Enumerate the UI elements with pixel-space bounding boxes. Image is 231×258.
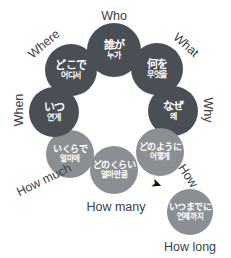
node-how-korean: 어떻게 <box>150 153 170 161</box>
node-how_many-korean: 얼마만큼 <box>101 171 127 179</box>
label-why: Why <box>201 98 215 123</box>
label-how_much: How much <box>14 161 73 199</box>
label-how_long: How long <box>164 240 216 254</box>
node-who-korean: 누가 <box>107 52 120 60</box>
label-how_many: How many <box>86 200 145 214</box>
node-how_long-japanese: いつまでに <box>169 203 212 212</box>
node-how_long: いつまでに언제까지 <box>167 189 213 235</box>
question-words-wheel-diagram: 誰が누가Who何を무엇을Whatなぜ왜Whyどのように어떻게Howどのくらい얼마… <box>0 0 231 258</box>
node-why-korean: 왜 <box>170 113 177 121</box>
node-what-korean: 무엇을 <box>147 71 167 79</box>
node-where-korean: 어디서 <box>61 72 81 80</box>
node-where: どこで어디서 <box>45 44 97 96</box>
node-who-japanese: 誰が <box>104 40 125 52</box>
node-when-korean: 연게 <box>47 114 60 122</box>
node-how_long-korean: 언제까지 <box>177 213 203 221</box>
node-what-japanese: 何を <box>147 59 168 71</box>
node-where-japanese: どこで <box>55 60 87 72</box>
node-how_much-japanese: いくらで <box>53 145 87 154</box>
label-how: How <box>175 162 201 191</box>
label-when: When <box>12 94 26 127</box>
node-how_many: どのくらい얼마만큼 <box>90 146 138 194</box>
arrow-marker-icon: ➤ <box>149 176 164 191</box>
node-why-japanese: なぜ <box>163 101 184 113</box>
node-when-japanese: いつ <box>44 102 65 114</box>
label-who: Who <box>101 9 127 23</box>
node-how_many-japanese: どのくらい <box>93 161 136 170</box>
node-how-japanese: どのように <box>139 143 182 152</box>
